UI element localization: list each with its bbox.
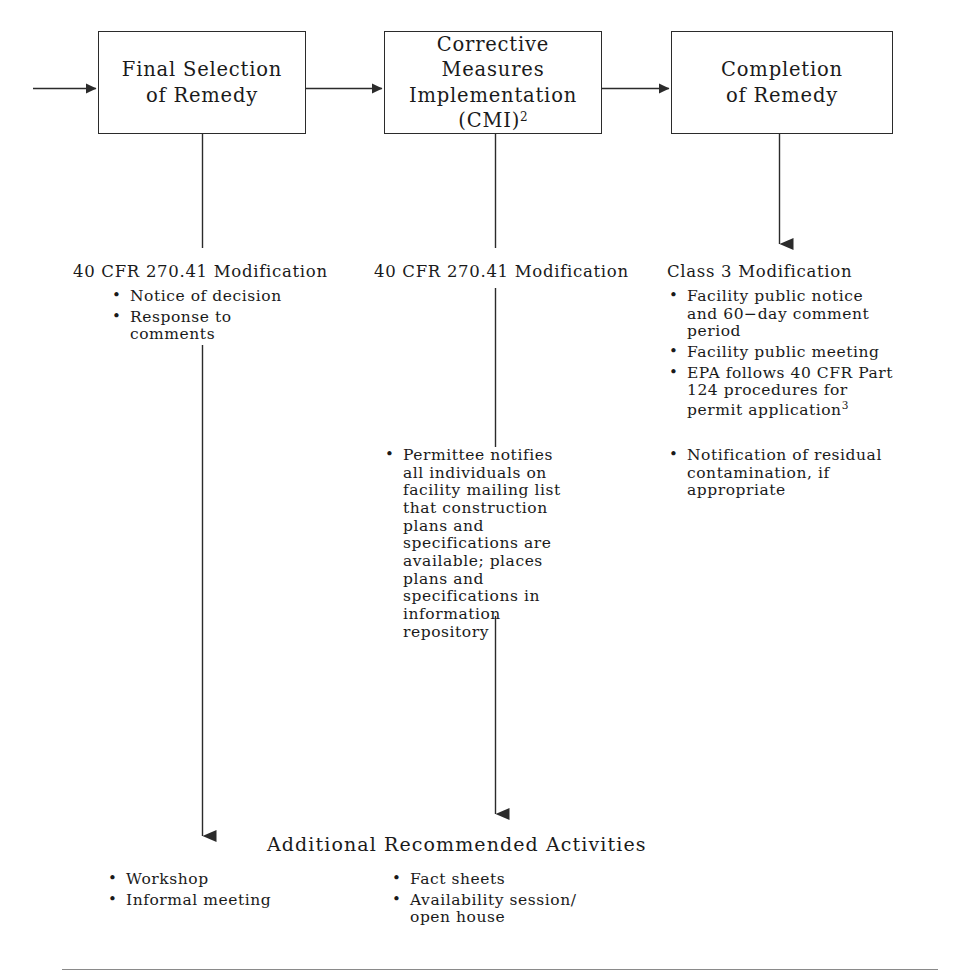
bullet-list-additional-middle: Fact sheets Availability session/ open h… (390, 871, 640, 930)
list-item-text: Response to comments (130, 308, 232, 344)
list-item: Facility public meeting (667, 344, 957, 362)
list-item: Informal meeting (106, 892, 336, 910)
process-box-label: Corrective Measures Implementation (CMI) (409, 33, 577, 132)
bullet-list-additional-left: Workshop Informal meeting (106, 871, 336, 912)
process-box-final-selection-of-remedy[interactable]: Final Selection of Remedy (98, 31, 306, 134)
list-item: Notification of residual contamination, … (667, 447, 957, 500)
process-box-corrective-measures-implementation[interactable]: Corrective Measures Implementation (CMI)… (384, 31, 602, 134)
list-item-text: Facility public notice and 60−day commen… (687, 287, 869, 340)
list-item-text: Facility public meeting (687, 343, 880, 361)
list-item-text: Workshop (126, 870, 209, 888)
process-box-label: Completion of Remedy (721, 57, 843, 108)
column-heading-cmi: 40 CFR 270.41 Modification (374, 262, 629, 281)
process-box-label: Final Selection of Remedy (122, 57, 282, 108)
bullet-list-completion: Facility public notice and 60−day commen… (667, 288, 957, 423)
list-item: EPA follows 40 CFR Part 124 procedures f… (667, 365, 957, 420)
list-item: Workshop (106, 871, 336, 889)
list-item-text: Notification of residual contamination, … (687, 446, 882, 499)
bullet-list-cmi-lower: Permittee notifies all individuals on fa… (383, 447, 633, 644)
list-item-text: Notice of decision (130, 287, 282, 305)
process-box-completion-of-remedy[interactable]: Completion of Remedy (671, 31, 893, 134)
list-item: Notice of decision (110, 288, 340, 306)
bullet-list-completion-lower: Notification of residual contamination, … (667, 447, 957, 503)
list-item: Fact sheets (390, 871, 640, 889)
column-heading-completion: Class 3 Modification (667, 262, 852, 281)
column-heading-final-selection: 40 CFR 270.41 Modification (73, 262, 328, 281)
list-item: Facility public notice and 60−day commen… (667, 288, 957, 341)
list-item: Permittee notifies all individuals on fa… (383, 447, 633, 641)
bullet-list-final-selection: Notice of decision Response to comments (110, 288, 340, 347)
list-item: Response to comments (110, 309, 340, 344)
list-item-text: Availability session/ open house (410, 891, 577, 927)
section-title-additional-activities: Additional Recommended Activities (267, 833, 647, 855)
list-item-text: EPA follows 40 CFR Part 124 procedures f… (687, 364, 893, 419)
process-box-label-wrap: Corrective Measures Implementation (CMI)… (409, 32, 577, 133)
footnote-marker-2: 2 (520, 110, 528, 124)
flowchart-canvas: Final Selection of Remedy Corrective Mea… (0, 0, 968, 979)
list-item-text: Fact sheets (410, 870, 505, 888)
footnote-marker-3: 3 (842, 399, 849, 411)
list-item-text: Informal meeting (126, 891, 271, 909)
list-item: Availability session/ open house (390, 892, 640, 927)
list-item-text: Permittee notifies all individuals on fa… (403, 446, 561, 641)
